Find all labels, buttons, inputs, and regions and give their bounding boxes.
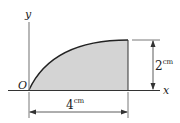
- height-arrow-top-icon: [151, 40, 156, 47]
- height-value: 2: [155, 59, 163, 73]
- height-unit: cm: [163, 58, 174, 66]
- height-dimension-label: 2cm: [155, 60, 173, 72]
- diagram-canvas: y x O 2cm 4cm: [0, 0, 180, 123]
- width-unit: cm: [74, 97, 85, 105]
- width-arrow-left-icon: [29, 110, 36, 115]
- origin-label: O: [18, 80, 27, 91]
- x-axis-label: x: [163, 85, 169, 96]
- height-arrow-bottom-icon: [151, 83, 156, 90]
- width-arrow-right-icon: [121, 110, 128, 115]
- y-axis-label: y: [25, 9, 31, 20]
- width-dimension-label: 4cm: [66, 99, 84, 111]
- width-value: 4: [66, 98, 74, 112]
